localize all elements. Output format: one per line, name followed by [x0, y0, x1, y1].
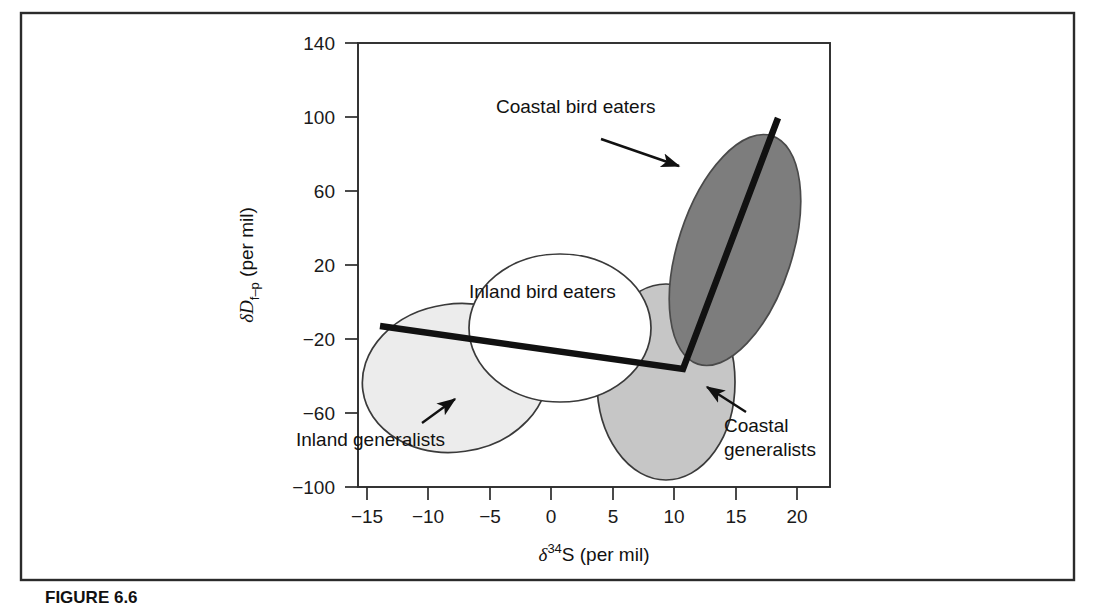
- y-axis-title-subscript: f–p: [247, 282, 262, 300]
- x-tick-label: −10: [412, 506, 444, 527]
- y-tick-label: 100: [303, 107, 335, 128]
- x-tick-label: 0: [546, 506, 557, 527]
- figure-caption: FIGURE 6.6: [45, 588, 138, 606]
- y-tick-label: 20: [314, 255, 335, 276]
- figure-svg: −15 −10 −5 0 5 10 15 20 140 100 60 20 −2…: [0, 0, 1095, 606]
- y-tick-label: 60: [314, 181, 335, 202]
- x-tick-label: −5: [479, 506, 501, 527]
- y-axis-title-rest: (per mil): [236, 207, 257, 282]
- annotation-label-coastal-generalists-line1: Coastal: [724, 415, 788, 436]
- y-axis-title-delta: δD: [236, 300, 257, 323]
- x-tick-label: 20: [786, 506, 807, 527]
- figure-container: −15 −10 −5 0 5 10 15 20 140 100 60 20 −2…: [0, 0, 1095, 606]
- annotation-inland-bird-eaters: Inland bird eaters: [469, 281, 616, 302]
- y-tick-label: 140: [303, 33, 335, 54]
- x-tick-label: −15: [351, 506, 383, 527]
- y-tick-label: −20: [303, 329, 335, 350]
- x-axis-title-superscript: 34: [547, 541, 561, 556]
- figure-caption-label: FIGURE 6.6: [45, 588, 138, 606]
- y-tick-label: −100: [292, 477, 335, 498]
- x-tick-label: 5: [608, 506, 619, 527]
- annotation-label-coastal-bird-eaters: Coastal bird eaters: [496, 96, 655, 117]
- x-axis-title-rest: S (per mil): [562, 544, 650, 565]
- y-tick-label: −60: [303, 403, 335, 424]
- x-tick-label: 15: [725, 506, 746, 527]
- annotation-label-inland-generalists: Inland generalists: [296, 429, 445, 450]
- x-tick-label: 10: [663, 506, 684, 527]
- annotation-label-inland-bird-eaters: Inland bird eaters: [469, 281, 616, 302]
- group-ellipse-inland-bird-eaters: [469, 254, 651, 402]
- annotation-label-coastal-generalists-line2: generalists: [724, 439, 816, 460]
